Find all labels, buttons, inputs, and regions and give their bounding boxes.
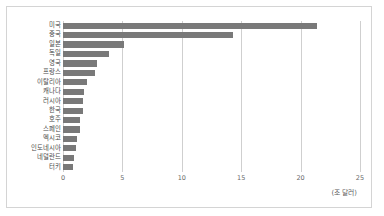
category-label-프랑스: 프랑스 (0, 68, 61, 77)
bar-row: 터키 (7, 163, 373, 172)
bar-row: 중국 (7, 30, 373, 39)
bar-row: 일본 (7, 40, 373, 49)
bar-row: 프랑스 (7, 68, 373, 77)
chart-figure-frame: 0510152025미국중국일본독일영국프랑스이탈리아캐나다러시아한국호주스페인… (6, 6, 372, 208)
bar-row: 호주 (7, 115, 373, 124)
bar-이탈리아 (63, 79, 87, 85)
bar-한국 (63, 108, 83, 114)
category-label-러시아: 러시아 (0, 97, 61, 106)
bar-호주 (63, 117, 80, 123)
x-axis-unit-label: (조 달러) (332, 187, 357, 197)
bar-row: 인도네시아 (7, 144, 373, 153)
x-tick-label-25: 25 (356, 174, 364, 182)
category-label-미국: 미국 (0, 21, 61, 30)
bar-멕시코 (63, 136, 77, 142)
category-label-터키: 터키 (0, 163, 61, 172)
category-label-중국: 중국 (0, 30, 61, 39)
bar-터키 (63, 164, 73, 170)
bar-영국 (63, 60, 97, 66)
category-label-한국: 한국 (0, 106, 61, 115)
bar-프랑스 (63, 70, 95, 76)
bar-미국 (63, 23, 317, 29)
bar-row: 스페인 (7, 125, 373, 134)
x-tick-label-10: 10 (178, 174, 186, 182)
bar-row: 미국 (7, 21, 373, 30)
bar-row: 영국 (7, 59, 373, 68)
category-label-영국: 영국 (0, 59, 61, 68)
category-label-스페인: 스페인 (0, 125, 61, 134)
bar-row: 캐나다 (7, 87, 373, 96)
bar-row: 멕시코 (7, 134, 373, 143)
chart-plot-area: 0510152025미국중국일본독일영국프랑스이탈리아캐나다러시아한국호주스페인… (7, 7, 373, 209)
x-tick-label-15: 15 (237, 174, 245, 182)
bar-row: 한국 (7, 106, 373, 115)
bar-row: 독일 (7, 49, 373, 58)
bar-중국 (63, 32, 233, 38)
category-label-네덜란드: 네덜란드 (0, 153, 61, 162)
category-label-인도네시아: 인도네시아 (0, 144, 61, 153)
bar-러시아 (63, 98, 83, 104)
bar-row: 네덜란드 (7, 153, 373, 162)
bar-독일 (63, 51, 109, 57)
bar-스페인 (63, 126, 80, 132)
category-label-일본: 일본 (0, 40, 61, 49)
bar-인도네시아 (63, 145, 76, 151)
category-label-이탈리아: 이탈리아 (0, 78, 61, 87)
x-tick-label-5: 5 (120, 174, 124, 182)
bar-일본 (63, 41, 124, 47)
bar-네덜란드 (63, 155, 74, 161)
category-label-호주: 호주 (0, 115, 61, 124)
bar-캐나다 (63, 89, 84, 95)
category-label-독일: 독일 (0, 49, 61, 58)
category-label-캐나다: 캐나다 (0, 87, 61, 96)
x-tick-label-0: 0 (61, 174, 65, 182)
x-tick-label-20: 20 (296, 174, 304, 182)
bar-row: 러시아 (7, 97, 373, 106)
category-label-멕시코: 멕시코 (0, 134, 61, 143)
bar-row: 이탈리아 (7, 78, 373, 87)
